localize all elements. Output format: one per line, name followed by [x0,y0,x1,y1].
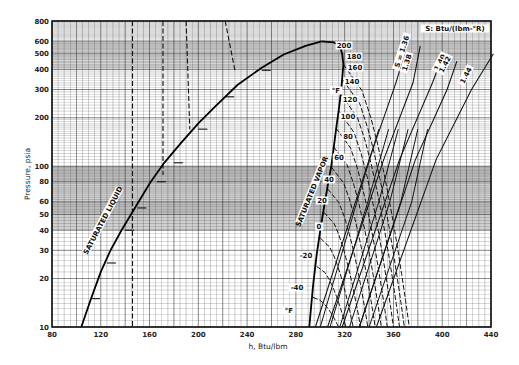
isotherm-label: 120 [342,96,359,105]
y-tick-label: 500 [34,50,49,58]
x-tick-label: 160 [142,331,157,339]
svg-text:S: Btu/(lbm-°R): S: Btu/(lbm-°R) [425,25,484,33]
isotherm-label: 80 [342,133,355,142]
x-tick-label: 360 [386,331,401,339]
y-tick-label: 40 [39,227,49,235]
x-tick-label: 200 [191,331,206,339]
svg-text:60: 60 [334,154,344,162]
isotherm-label: 140 [344,78,361,87]
x-tick-label: 240 [240,331,255,339]
svg-text:180: 180 [347,53,362,61]
x-tick-label: 280 [289,331,304,339]
isotherm-label: 60 [333,154,346,163]
svg-text:°F: °F [332,87,341,95]
isotherm-label: 0 [315,223,323,232]
pressure-enthalpy-chart: SATURATED LIQUIDSATURATED VAPOR-40-20020… [0,0,519,365]
y-tick-label: 80 [39,178,49,186]
svg-text:-40: -40 [291,284,304,292]
svg-text:0: 0 [317,223,322,231]
x-tick-label: 440 [484,331,499,339]
y-tick-label: 10 [39,324,49,332]
x-tick-label: 400 [435,331,450,339]
y-tick-label: 200 [34,114,49,122]
y-axis-label: Pressure, psia [23,148,32,200]
svg-text:-20: -20 [300,252,313,260]
svg-text:80: 80 [343,133,353,141]
svg-text:20: 20 [317,197,327,205]
svg-text:120: 120 [343,96,358,104]
isotherm-unit-label: °F [283,307,296,316]
isotherm-label: 40 [323,176,336,185]
x-tick-label: 80 [47,331,57,339]
isentrope-unit-label: S: Btu/(lbm-°R) [421,25,490,34]
isotherm-unit-label: °F [330,87,343,96]
y-tick-label: 60 [39,198,49,206]
isotherm-label: 100 [340,113,357,122]
y-tick-label: 800 [34,18,49,26]
svg-text:140: 140 [345,78,360,86]
svg-text:40: 40 [324,176,334,184]
svg-text:160: 160 [348,64,363,72]
x-axis-ticks: 80120160200240280320360400440 [47,331,498,339]
y-tick-label: 30 [39,247,49,255]
x-axis-label: h, Btu/lbm [248,342,287,351]
isotherm-label: -20 [298,252,315,261]
isotherm-label: 20 [316,197,329,206]
y-tick-label: 100 [34,163,49,171]
svg-text:100: 100 [341,113,356,121]
svg-text:°F: °F [285,307,294,315]
y-tick-label: 20 [39,275,49,283]
y-tick-label: 600 [34,38,49,46]
isotherm-label: -40 [289,284,306,293]
x-tick-label: 120 [93,331,108,339]
y-axis-ticks: 10203040506080100200300400500600800 [34,18,49,332]
isotherm-liquid-dashed [186,21,190,129]
svg-text:200: 200 [337,42,352,50]
y-tick-label: 400 [34,66,49,74]
y-tick-label: 50 [39,211,49,219]
x-tick-label: 320 [337,331,352,339]
isotherm-label: 180 [346,53,363,62]
isotherm-superheated [320,238,353,327]
isotherm-label: 200 [336,42,353,51]
isotherm-label: 160 [347,64,364,73]
y-tick-label: 300 [34,86,49,94]
isotherm-superheated [317,266,346,327]
